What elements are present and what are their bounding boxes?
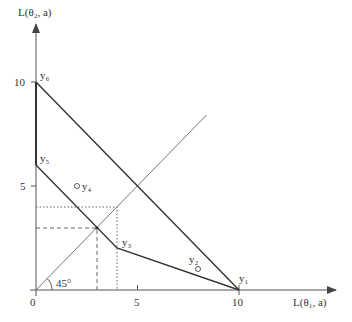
angle-label: 45° (56, 277, 71, 289)
y-axis-label: L(θ₂, a) (18, 6, 52, 19)
y-tick-label-10: 10 (14, 76, 26, 88)
minimax-point (95, 226, 98, 229)
origin-label: 0 (30, 296, 36, 308)
diagonal-45-line (36, 115, 207, 290)
point-y2 (196, 267, 201, 272)
point-y4 (75, 184, 80, 189)
label-y3: y₃ (122, 236, 132, 248)
angle-arc (47, 279, 52, 291)
label-y4: y₄ (82, 180, 92, 192)
label-y1: y₁ (239, 272, 249, 284)
x-tick-label-5: 5 (134, 296, 140, 308)
y-tick-label-5: 5 (20, 180, 26, 192)
label-y6: y₆ (40, 69, 50, 81)
x-axis-label: L(θ₁, a) (293, 296, 327, 309)
label-y5: y₅ (40, 152, 50, 164)
risk-set-diagram: 0 5 10 5 10 L(θ₂, a) L(θ₁, a) 45° y₆ y₅ … (0, 0, 352, 322)
x-tick-label-10: 10 (232, 296, 244, 308)
label-y2: y₂ (189, 253, 199, 265)
